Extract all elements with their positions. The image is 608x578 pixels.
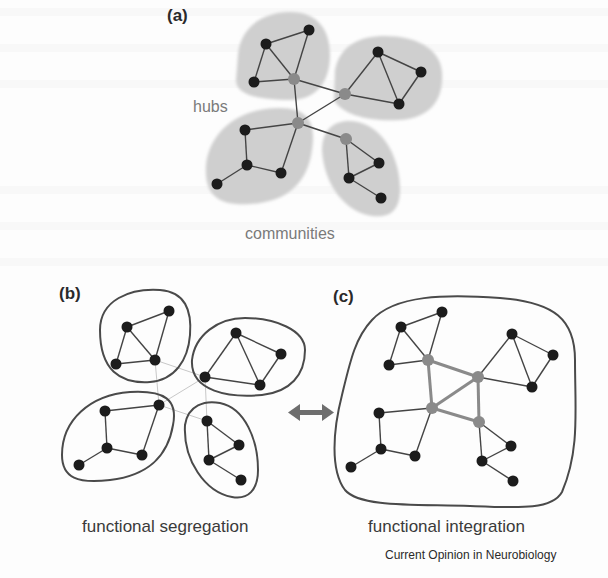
node bbox=[384, 360, 395, 371]
node bbox=[304, 25, 315, 36]
community-blob-top-left bbox=[236, 12, 330, 100]
node bbox=[410, 451, 421, 462]
panel-b-label: (b) bbox=[59, 284, 81, 304]
journal-credit: Current Opinion in Neurobiology bbox=[385, 548, 556, 562]
edges-c bbox=[351, 312, 553, 481]
hub-node bbox=[426, 402, 438, 414]
module-outline-top-right bbox=[192, 318, 305, 396]
node bbox=[154, 400, 165, 411]
hub-node bbox=[422, 354, 434, 366]
node bbox=[437, 307, 448, 318]
node bbox=[416, 67, 427, 78]
segregation-caption: functional segregation bbox=[82, 517, 248, 537]
communities-annotation: communities bbox=[245, 225, 335, 243]
hubs-annotation: hubs bbox=[193, 98, 228, 116]
node bbox=[373, 47, 384, 58]
faint-inter-module-edges bbox=[155, 360, 207, 421]
node bbox=[164, 306, 175, 317]
node bbox=[506, 441, 517, 452]
node bbox=[344, 173, 355, 184]
node bbox=[231, 328, 242, 339]
hub-node bbox=[473, 416, 485, 428]
node bbox=[137, 450, 148, 461]
node bbox=[276, 168, 287, 179]
node bbox=[249, 77, 260, 88]
hub-node bbox=[472, 371, 484, 383]
node bbox=[100, 406, 111, 417]
node bbox=[548, 350, 559, 361]
panel-a-label: (a) bbox=[167, 6, 188, 26]
node bbox=[122, 322, 133, 333]
node bbox=[74, 460, 85, 471]
node bbox=[242, 160, 253, 171]
node bbox=[376, 193, 387, 204]
node bbox=[236, 475, 247, 486]
node bbox=[200, 372, 211, 383]
node bbox=[102, 443, 113, 454]
double-arrow-icon bbox=[288, 404, 334, 421]
hub-node bbox=[288, 73, 300, 85]
hub-node bbox=[340, 133, 352, 145]
hub-node bbox=[339, 88, 351, 100]
node bbox=[255, 380, 266, 391]
node bbox=[150, 355, 161, 366]
node bbox=[240, 125, 251, 136]
panel-c-label: (c) bbox=[333, 287, 354, 307]
panel-b bbox=[62, 290, 305, 498]
node bbox=[374, 158, 385, 169]
node bbox=[234, 440, 245, 451]
node bbox=[261, 39, 272, 50]
community-blobs bbox=[206, 12, 442, 216]
nodes-c bbox=[346, 307, 559, 487]
node bbox=[396, 322, 407, 333]
node bbox=[111, 359, 122, 370]
hub-node bbox=[292, 117, 304, 129]
network-diagram bbox=[0, 0, 608, 578]
node bbox=[394, 99, 405, 110]
node bbox=[346, 462, 357, 473]
panel-a bbox=[206, 12, 442, 216]
node bbox=[527, 382, 538, 393]
module-outlines bbox=[62, 290, 305, 498]
integrated-network-outline bbox=[335, 296, 576, 507]
node bbox=[507, 329, 518, 340]
module-outline-bottom-right bbox=[185, 402, 258, 497]
node bbox=[374, 408, 385, 419]
integration-caption: functional integration bbox=[368, 517, 525, 537]
node bbox=[477, 456, 488, 467]
node bbox=[508, 476, 519, 487]
node bbox=[376, 444, 387, 455]
node bbox=[202, 416, 213, 427]
node bbox=[204, 455, 215, 466]
node bbox=[276, 349, 287, 360]
panel-c bbox=[335, 296, 576, 507]
node bbox=[212, 179, 223, 190]
